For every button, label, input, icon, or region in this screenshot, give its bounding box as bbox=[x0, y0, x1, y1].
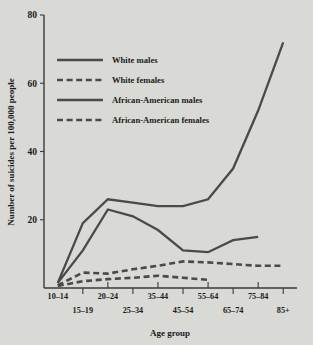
x-tick-label: 25–34 bbox=[123, 306, 143, 315]
legend-label-white-males: White males bbox=[112, 55, 158, 65]
suicide-rate-line-chart: 80604020 Number of suicides per 100,000 … bbox=[0, 0, 313, 345]
chart-canvas: 80604020 Number of suicides per 100,000 … bbox=[0, 0, 313, 345]
legend-label-white-females: White females bbox=[112, 75, 165, 85]
x-tick-label: 65–74 bbox=[223, 306, 243, 315]
x-tick-label: 75–84 bbox=[248, 292, 268, 301]
chart-legend: White malesWhite femalesAfrican-American… bbox=[57, 55, 210, 125]
x-axis-title: Age group bbox=[150, 328, 190, 338]
y-tick-label: 20 bbox=[28, 215, 38, 225]
x-tick-label: 35–44 bbox=[148, 292, 168, 301]
x-tick-label: 45–54 bbox=[173, 306, 193, 315]
x-tick-label: 85+ bbox=[277, 306, 290, 315]
x-tick-label: 15–19 bbox=[73, 306, 93, 315]
x-tick-label: 20–24 bbox=[98, 292, 118, 301]
series-line-white-males bbox=[58, 42, 283, 283]
y-axis-group: 80604020 Number of suicides per 100,000 … bbox=[6, 10, 44, 288]
legend-label-african-american-males: African-American males bbox=[112, 95, 203, 105]
legend-label-african-american-females: African-American females bbox=[112, 115, 210, 125]
x-axis-group: 10–1415–1920–2425–3435–4445–5455–6465–74… bbox=[44, 282, 297, 338]
x-tick-label: 55–64 bbox=[198, 292, 218, 301]
x-tick-label: 10–14 bbox=[48, 292, 68, 301]
y-tick-group: 80604020 bbox=[28, 10, 45, 225]
y-tick-label: 80 bbox=[28, 10, 38, 20]
y-tick-label: 40 bbox=[28, 147, 38, 157]
y-tick-label: 60 bbox=[28, 79, 38, 89]
series-line-african-american-females bbox=[58, 276, 208, 286]
x-tick-group: 10–1415–1920–2425–3435–4445–5455–6465–74… bbox=[48, 282, 290, 315]
y-axis-title: Number of suicides per 100,000 people bbox=[6, 78, 16, 226]
